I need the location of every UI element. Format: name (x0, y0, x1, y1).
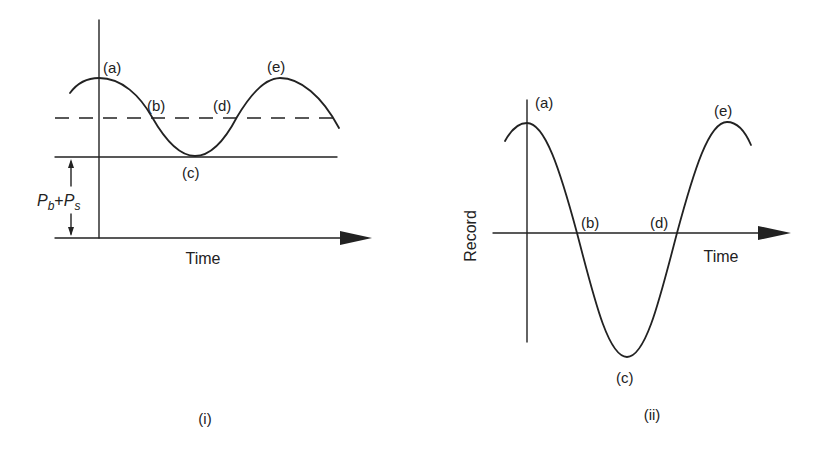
panel-i-caption: (i) (198, 410, 211, 427)
panel-i-dimension-label: Pb+Ps (37, 192, 80, 213)
panel-ii-caption: (ii) (644, 406, 661, 423)
pressure-symbol: P (37, 192, 48, 209)
panel-ii-label-e: (e) (714, 102, 732, 119)
panel-ii-record-label: Record (462, 210, 479, 262)
panel-i-dimension-arrow-down-icon (68, 227, 74, 236)
panel-i-dimension-arrow-up-icon (68, 159, 74, 168)
plus-sign: + (54, 192, 63, 209)
panel-ii-label-c: (c) (616, 369, 634, 386)
panel-i-time-axis-arrowhead-icon (340, 231, 372, 245)
panel-i-wave-curve (70, 78, 339, 156)
panel-ii-time-label: Time (704, 248, 739, 265)
panel-ii-record-curve (505, 122, 751, 357)
panel-ii-label-b: (b) (581, 214, 599, 231)
panel-i-label-c: (c) (182, 164, 200, 181)
panel-i-label-a: (a) (103, 59, 121, 76)
panel-ii: (a) (b) (c) (d) (e) Time Record (ii) (462, 94, 791, 423)
subscript-s: s (74, 199, 80, 213)
panel-ii-time-axis-arrowhead-icon (758, 226, 791, 240)
panel-i: (a) (b) (c) (d) (e) Pb+Ps Time (i) (37, 20, 372, 427)
panel-ii-label-d: (d) (650, 214, 668, 231)
panel-ii-label-a: (a) (535, 94, 553, 111)
panel-i-label-d: (d) (213, 97, 231, 114)
pressure-symbol: P (64, 192, 75, 209)
wave-pressure-diagram: (a) (b) (c) (d) (e) Pb+Ps Time (i) (a) (… (0, 0, 827, 452)
panel-i-time-label: Time (186, 250, 221, 267)
panel-i-label-e: (e) (267, 58, 285, 75)
panel-i-label-b: (b) (147, 97, 165, 114)
